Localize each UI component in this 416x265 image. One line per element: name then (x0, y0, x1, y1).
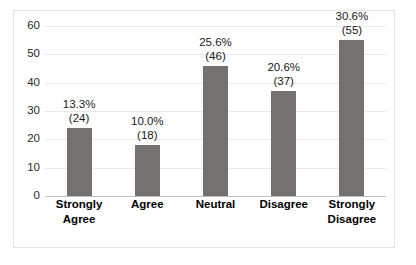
chart-frame: 6050403020100 13.3%(24)10.0%(18)25.6%(46… (13, 10, 395, 248)
y-axis-tick-label: 50 (27, 49, 40, 61)
bar[interactable] (67, 128, 92, 196)
x-axis-label-line: Agree (113, 197, 181, 212)
bar-series: 13.3%(24)10.0%(18)25.6%(46)20.6%(37)30.6… (45, 26, 386, 196)
x-axis-label-line: Agree (45, 212, 113, 227)
x-axis-category-labels: StronglyAgreeAgreeNeutralDisagreeStrongl… (45, 197, 386, 235)
bar-percent-text: 20.6% (267, 60, 300, 74)
bar-slot: 25.6%(46) (181, 26, 249, 196)
x-axis-category-label: StronglyAgree (45, 197, 113, 235)
bar-percent-text: 13.3% (63, 97, 96, 111)
bar-count-text: (24) (63, 111, 96, 125)
y-axis-tick-label: 30 (27, 105, 40, 117)
x-axis-category-label: Neutral (181, 197, 249, 235)
bar-value-label: 10.0%(18) (131, 114, 164, 142)
bar[interactable] (339, 40, 364, 196)
bar-value-label: 20.6%(37) (267, 60, 300, 88)
bar[interactable] (271, 91, 296, 196)
bar-count-text: (55) (336, 23, 369, 37)
plot-area: 6050403020100 13.3%(24)10.0%(18)25.6%(46… (45, 26, 386, 196)
y-axis-tick-label: 0 (34, 190, 40, 202)
bar[interactable] (203, 66, 228, 196)
bar-slot: 30.6%(55) (318, 26, 386, 196)
y-axis-tick-label: 10 (27, 162, 40, 174)
y-axis-tick-label: 40 (27, 77, 40, 89)
bar-percent-text: 30.6% (336, 9, 369, 23)
x-axis-label-line: Strongly (45, 197, 113, 212)
x-axis-category-label: Agree (113, 197, 181, 235)
x-axis-category-label: Disagree (250, 197, 318, 235)
y-axis-tick-label: 20 (27, 134, 40, 146)
x-axis-category-label: StronglyDisagree (318, 197, 386, 235)
x-axis-label-line: Neutral (181, 197, 249, 212)
bar-percent-text: 10.0% (131, 114, 164, 128)
bar-count-text: (46) (199, 49, 232, 63)
bar-count-text: (18) (131, 128, 164, 142)
x-axis-label-line: Disagree (318, 212, 386, 227)
bar[interactable] (135, 145, 160, 196)
x-axis-label-line: Disagree (250, 197, 318, 212)
bar-count-text: (37) (267, 74, 300, 88)
bar-percent-text: 25.6% (199, 35, 232, 49)
bar-value-label: 25.6%(46) (199, 35, 232, 63)
bar-slot: 20.6%(37) (250, 26, 318, 196)
y-axis-tick-label: 60 (27, 20, 40, 32)
bar-value-label: 30.6%(55) (336, 9, 369, 37)
bar-value-label: 13.3%(24) (63, 97, 96, 125)
bar-slot: 13.3%(24) (45, 26, 113, 196)
bar-slot: 10.0%(18) (113, 26, 181, 196)
x-axis-label-line: Strongly (318, 197, 386, 212)
